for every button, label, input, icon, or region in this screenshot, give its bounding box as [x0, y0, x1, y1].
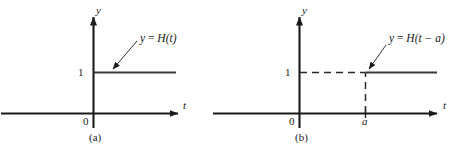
- panel-a-caption: (a): [89, 132, 101, 143]
- panel-b-y-axis-label: y: [302, 5, 307, 16]
- figure-vector-graphics: [0, 0, 461, 154]
- panel-b-t-axis-label: t: [443, 100, 446, 111]
- panel-b-curve-label-operator: =: [394, 32, 406, 44]
- panel-a-curve-label-rhs: H(t): [157, 32, 176, 44]
- panel-b-curve-label: y = H(t − a): [389, 33, 445, 45]
- panel-a-t-axis-label: t: [183, 100, 186, 111]
- panel-b-tick-label-1: 1: [285, 67, 291, 78]
- panel-a-tick-label-1: 1: [78, 67, 84, 78]
- panel-a-y-axis-label: y: [96, 5, 101, 16]
- panel-b-origin-label: 0: [289, 116, 295, 127]
- panel-a-curve-label: y = H(t): [140, 33, 177, 45]
- panel-b-caption: (b): [295, 132, 308, 143]
- panel-a-leader-line: [113, 41, 137, 69]
- panel-b-leader-line: [369, 45, 386, 69]
- panel-a-curve-label-operator: =: [145, 32, 157, 44]
- panel-a-origin-label: 0: [83, 116, 89, 127]
- figure-heaviside-step-functions: y t 1 0 y = H(t) (a) y t 1 0 a y = H(t −…: [0, 0, 461, 154]
- panel-b-tick-label-a: a: [362, 116, 368, 127]
- panel-b-curve-label-rhs: H(t − a): [406, 32, 444, 44]
